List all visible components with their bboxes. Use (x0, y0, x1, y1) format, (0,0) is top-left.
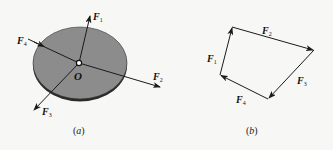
label-f2: F2 (152, 71, 163, 83)
center-label: O (74, 70, 82, 82)
force-diagram: O F1 F2 F3 F4 (a) F1 F2 F3 F4 (b) (0, 0, 333, 150)
figure-b: F1 F2 F3 F4 (b) (206, 25, 314, 137)
polygon-label-f2: F2 (261, 25, 272, 37)
polygon-side-f1 (220, 28, 232, 75)
polygon-side-f4 (221, 76, 268, 100)
center-point-o (76, 60, 81, 65)
figure-a: O F1 F2 F3 F4 (a) (16, 11, 163, 137)
polygon-side-f3 (269, 50, 314, 98)
polygon-label-f3: F3 (296, 75, 307, 87)
label-f1: F1 (92, 11, 103, 23)
polygon-side-f2 (232, 27, 313, 50)
caption-b: (b) (246, 125, 258, 137)
label-f4: F4 (16, 35, 27, 47)
label-f3: F3 (41, 106, 52, 118)
caption-a: (a) (73, 125, 85, 137)
polygon-label-f4: F4 (235, 94, 246, 106)
polygon-label-f1: F1 (206, 53, 217, 65)
